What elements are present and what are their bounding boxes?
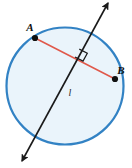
- point-b-dot: [112, 76, 118, 82]
- point-a-dot: [32, 35, 38, 41]
- circle-outline: [7, 28, 124, 145]
- geometry-figure: A B l: [0, 0, 132, 168]
- line-l-label: l: [69, 87, 72, 98]
- point-a-label: A: [25, 21, 33, 33]
- point-b-label: B: [116, 64, 124, 76]
- geometry-canvas: A B l: [0, 0, 132, 168]
